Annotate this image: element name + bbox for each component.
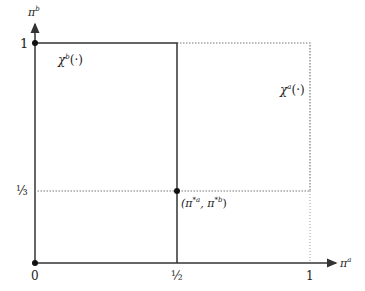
chi-b-curve bbox=[35, 43, 177, 263]
best-response-diagram: πb πa 1 ⅓ 0 ½ 1 χb(·) χa(·) (π*a, π*b) bbox=[0, 0, 365, 291]
y-axis-label: πb bbox=[27, 5, 40, 19]
x-axis-label: πa bbox=[339, 256, 351, 270]
equilibrium-label: (π*a, π*b) bbox=[181, 196, 227, 210]
equilibrium-point bbox=[174, 188, 180, 194]
chi-a-label: χa(·) bbox=[279, 83, 305, 97]
x-tick-1: 1 bbox=[306, 269, 314, 283]
point-0-1 bbox=[32, 40, 38, 46]
y-tick-1: 1 bbox=[20, 36, 28, 51]
point-origin bbox=[32, 260, 38, 266]
chi-b-label: χb(·) bbox=[57, 53, 83, 67]
x-tick-half: ½ bbox=[171, 269, 183, 283]
y-tick-third: ⅓ bbox=[16, 184, 28, 198]
x-tick-0: 0 bbox=[31, 269, 39, 283]
